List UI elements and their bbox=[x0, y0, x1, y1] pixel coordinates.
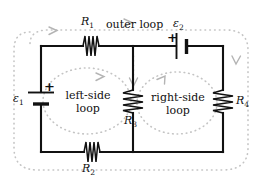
right-loop-arrow bbox=[157, 76, 165, 84]
resistor-r3-label: R3 bbox=[124, 115, 137, 129]
outer-loop-arrow-right bbox=[232, 56, 241, 64]
circuit-diagram: R1 R2 R3 R4 ε1 + ε2 + outer loop left-si… bbox=[0, 0, 266, 187]
resistor-r4-symbol bbox=[213, 90, 233, 113]
resistor-r4-label: R4 bbox=[236, 95, 249, 109]
battery-emf2-symbol bbox=[177, 33, 187, 59]
resistor-r1-label: R1 bbox=[81, 16, 94, 30]
resistor-r1-symbol bbox=[83, 36, 99, 56]
outer-loop-label: outer loop bbox=[106, 19, 163, 32]
resistor-r3-symbol bbox=[123, 90, 143, 113]
left-loop-label: left-sideloop bbox=[58, 90, 118, 115]
resistor-r2-label: R2 bbox=[82, 163, 95, 177]
battery-emf1-polarity: + bbox=[44, 80, 55, 93]
battery-emf1-symbol bbox=[28, 93, 54, 105]
battery-emf1-label: ε1 bbox=[13, 93, 24, 107]
outer-loop-arrow-left bbox=[49, 27, 57, 35]
right-loop-label: right-sideloop bbox=[148, 92, 208, 117]
battery-emf2-polarity: + bbox=[167, 31, 178, 44]
left-loop-arrow bbox=[96, 73, 104, 81]
resistor-r2-symbol bbox=[84, 142, 100, 162]
